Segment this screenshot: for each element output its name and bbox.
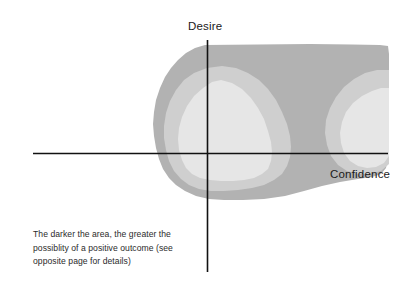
diagram-canvas: Desire Confidence The darker the area, t…: [0, 0, 409, 297]
figure-caption: The darker the area, the greater the pos…: [33, 228, 203, 269]
axis-label-confidence: Confidence: [330, 168, 390, 180]
axis-label-desire: Desire: [188, 20, 222, 32]
